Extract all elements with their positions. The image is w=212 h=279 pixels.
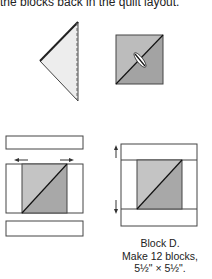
top-strip — [6, 136, 83, 149]
press-arrow-right-icon — [60, 158, 74, 162]
caption-size: 5½" × 5½". — [118, 262, 202, 275]
block-assembly-exploded-illustration — [6, 136, 83, 236]
press-arrow-up-icon — [114, 145, 118, 158]
half-square-triangle-illustration — [116, 35, 163, 84]
folded-triangle-illustration — [40, 22, 78, 101]
block-caption: Block D. Make 12 blocks, 5½" × 5½". — [118, 237, 202, 275]
caption-title: Block D. — [118, 237, 202, 250]
caption-quantity: Make 12 blocks, — [118, 250, 202, 263]
press-arrow-down-icon — [114, 200, 118, 214]
finished-block-illustration — [114, 144, 197, 226]
bottom-strip — [6, 221, 83, 236]
press-arrow-left-icon — [14, 158, 28, 162]
